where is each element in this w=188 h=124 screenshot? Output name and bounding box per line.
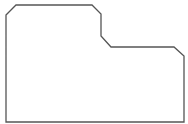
- diagram-canvas: [0, 0, 188, 124]
- chamfered-outline-shape: [6, 5, 184, 122]
